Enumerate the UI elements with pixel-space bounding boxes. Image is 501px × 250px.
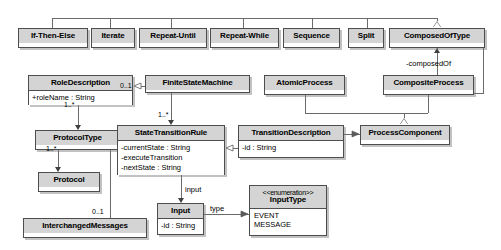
class-state-transition-rule[interactable]: StateTransitionRule -currentState : Stri… — [117, 125, 225, 175]
class-split[interactable]: Split — [348, 28, 384, 48]
gen-tree-processcomponent-horizontal — [305, 113, 428, 114]
attribute-input-id: -id : String — [161, 221, 200, 231]
label-input-role: input — [185, 186, 201, 194]
multiplicity-fsm-to-role: 0..1 — [120, 82, 132, 89]
class-finite-state-machine-name: FiniteStateMachine — [146, 76, 249, 90]
class-process-component[interactable]: ProcessComponent — [360, 125, 450, 145]
attribute-nextstate: -nextState : String — [121, 163, 221, 173]
class-iterate[interactable]: Iterate — [91, 28, 135, 48]
class-split-name: Split — [349, 29, 383, 43]
class-atomic-process-name: AtomicProcess — [265, 76, 344, 90]
assoc-composedof-vertical-right — [483, 48, 484, 93]
gen-stem-atomicprocess — [305, 95, 306, 113]
enum-literal-event: EVENT — [254, 211, 323, 220]
class-protocol-type-name: ProtocolType — [36, 131, 119, 145]
gen-stem-repeat-while — [243, 18, 244, 28]
gen-stem-if-then-else — [52, 18, 53, 28]
class-transition-description-name: TransitionDescription — [239, 126, 343, 141]
class-interchanged-messages-name: InterchangedMessages — [24, 219, 146, 233]
class-input[interactable]: Input -id : String — [157, 203, 204, 235]
class-protocol[interactable]: Protocol — [38, 172, 100, 192]
class-input-name: Input — [158, 204, 203, 219]
class-atomic-process[interactable]: AtomicProcess — [264, 75, 345, 95]
class-repeat-until-name: Repeat-Until — [140, 29, 206, 43]
gen-stem-sequence — [312, 18, 313, 28]
attribute-executetransition: -executeTransition — [121, 153, 221, 163]
class-repeat-while-name: Repeat-While — [211, 29, 278, 43]
class-role-description[interactable]: RoleDescription +roleName : String — [28, 75, 133, 105]
gen-stem-split — [367, 18, 368, 28]
assoc-composedof-arrowhead — [434, 48, 440, 53]
enum-literal-message: MESSAGE — [254, 220, 323, 229]
input-type-classname: InputType — [253, 196, 323, 204]
class-input-type[interactable]: <<enumeration>> InputType EVENT MESSAGE — [249, 185, 327, 236]
attribute-currentstate: -currentState : String — [121, 143, 221, 153]
class-input-type-literals: EVENT MESSAGE — [250, 209, 326, 233]
class-if-then-else-name: If-Then-Else — [19, 29, 87, 43]
class-transition-description-attributes: -id : String — [239, 141, 343, 155]
class-process-component-name: ProcessComponent — [361, 126, 449, 140]
class-protocol-name: Protocol — [39, 173, 99, 187]
class-composite-process-name: CompositeProcess — [384, 76, 473, 90]
assoc-str-transitiondesc — [228, 148, 238, 149]
class-input-type-name: <<enumeration>> InputType — [250, 186, 326, 209]
class-input-attributes: -id : String — [158, 219, 203, 233]
assoc-fsm-roledescription — [137, 86, 145, 87]
class-interchanged-messages[interactable]: InterchangedMessages — [23, 218, 147, 238]
class-finite-state-machine[interactable]: FiniteStateMachine — [145, 75, 250, 93]
attribute-rolename: +roleName : String — [32, 93, 129, 103]
class-repeat-until[interactable]: Repeat-Until — [139, 28, 207, 48]
attribute-transition-id: -id : String — [242, 143, 340, 153]
assoc-protocoltype-interchanged-vertical — [110, 150, 111, 218]
class-composite-process[interactable]: CompositeProcess — [383, 75, 474, 95]
class-sequence[interactable]: Sequence — [283, 28, 340, 48]
class-repeat-while[interactable]: Repeat-While — [210, 28, 279, 48]
class-transition-description[interactable]: TransitionDescription -id : String — [238, 125, 344, 158]
assoc-protocoltype-protocol-vertical — [58, 150, 59, 167]
gen-stem-compositeprocess — [428, 95, 429, 113]
assoc-str-input-vertical — [181, 175, 182, 198]
multiplicity-role-to-protocoltype: 1..* — [64, 101, 75, 108]
class-role-description-attributes: +roleName : String — [29, 91, 132, 105]
generalization-triangle-composedoftype — [433, 22, 441, 28]
class-state-transition-rule-attributes: -currentState : String -executeTransitio… — [118, 141, 224, 175]
assoc-input-inputtype-horizontal — [204, 214, 249, 215]
uml-class-diagram-canvas: If-Then-Else Iterate Repeat-Until Repeat… — [0, 0, 501, 250]
multiplicity-protocoltype-to-interchanged: 0..1 — [92, 208, 104, 215]
gen-stem-iterate — [110, 18, 111, 28]
class-role-description-name: RoleDescription — [29, 76, 132, 91]
label-composed-of: -composedOf — [406, 60, 451, 68]
label-type-role: type — [210, 205, 224, 213]
multiplicity-fsm-to-str: 1..* — [158, 111, 169, 118]
class-iterate-name: Iterate — [92, 29, 134, 43]
class-composed-of-type[interactable]: ComposedOfType — [389, 28, 485, 48]
multiplicity-protocoltype-to-protocol: 1..* — [46, 145, 57, 152]
class-sequence-name: Sequence — [284, 29, 339, 43]
assoc-fsm-str-vertical — [171, 93, 172, 120]
generalization-triangle-processcomponent — [400, 119, 408, 125]
class-if-then-else[interactable]: If-Then-Else — [18, 28, 88, 48]
assoc-transitiondesc-processcomponent — [344, 134, 360, 135]
gen-stem-repeat-until — [171, 18, 172, 28]
class-state-transition-rule-name: StateTransitionRule — [118, 126, 224, 141]
assoc-role-protocoltype-vertical — [78, 105, 79, 125]
class-composed-of-type-name: ComposedOfType — [390, 29, 484, 43]
